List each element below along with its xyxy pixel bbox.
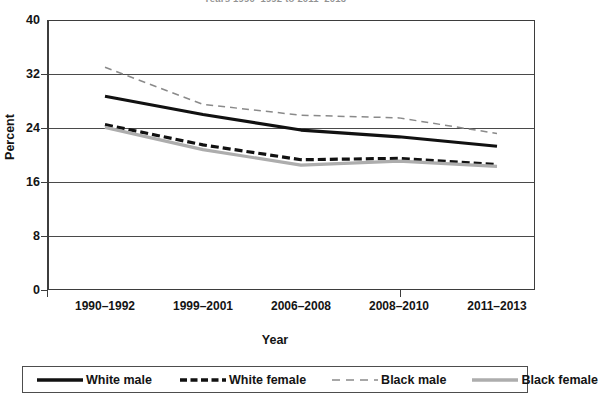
y-axis-title: Percent: [3, 94, 17, 180]
x-axis-labels: 1990–1992 1999–2001 2006–2008 2008–2010 …: [0, 299, 550, 319]
x-tick-label-3: 2006–2008: [271, 299, 331, 313]
legend-item-black-male[interactable]: Black male: [332, 367, 446, 392]
legend-swatch-white-male: [37, 374, 83, 386]
gridline-24: [49, 128, 534, 129]
y-tick-label-16: 16: [26, 175, 40, 189]
x-tick-label-2: 1999–2001: [173, 299, 233, 313]
legend-item-black-female[interactable]: Black female: [472, 367, 597, 392]
legend-label-black-male: Black male: [381, 373, 446, 387]
legend-item-white-female[interactable]: White female: [180, 367, 306, 392]
x-axis-title: Year: [0, 333, 550, 347]
x-tick-label-5: 2011–2013: [467, 299, 526, 313]
y-tick-label-40: 40: [26, 13, 40, 27]
x-tick-mark-left-edge: [47, 290, 48, 297]
x-tick-label-1: 1990–1992: [75, 299, 135, 313]
y-tick-label-32: 32: [26, 67, 40, 81]
y-tick-label-24: 24: [26, 121, 40, 135]
legend-label-white-male: White male: [86, 373, 152, 387]
plot-area: [47, 20, 535, 290]
gridline-32: [49, 74, 534, 75]
y-tick-label-0: 0: [33, 283, 40, 297]
legend-label-white-female: White female: [229, 373, 306, 387]
x-tick-label-4: 2008–2010: [369, 299, 429, 313]
chart-legend: White male White female Black male Black…: [22, 366, 528, 393]
y-tick-label-8: 8: [33, 229, 40, 243]
legend-swatch-black-male: [332, 374, 378, 386]
legend-swatch-black-female: [472, 374, 518, 386]
legend-label-black-female: Black female: [521, 373, 597, 387]
gridline-8: [49, 236, 534, 237]
x-tick-mark-4: [400, 290, 401, 297]
legend-swatch-white-female: [180, 374, 226, 386]
gridline-16: [49, 182, 534, 183]
legend-item-white-male[interactable]: White male: [37, 367, 152, 392]
chart-title: Years 1990–1992 to 2011–2013: [0, 0, 550, 2]
